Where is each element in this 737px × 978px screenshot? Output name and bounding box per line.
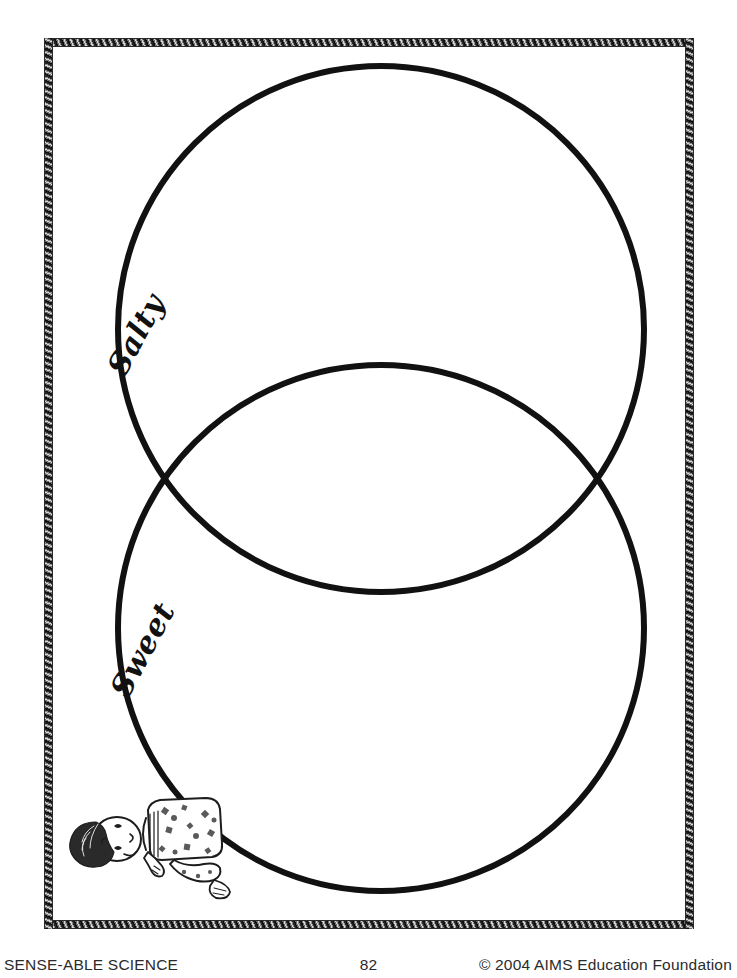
child-lying-down-illustration bbox=[62, 792, 240, 910]
page-footer: SENSE-ABLE SCIENCE 82 © 2004 AIMS Educat… bbox=[0, 952, 737, 978]
venn-label-sweet: Sweet bbox=[103, 596, 182, 703]
venn-label-salty: Salty bbox=[100, 288, 171, 381]
rope-border-left bbox=[44, 38, 53, 929]
rope-border-top bbox=[44, 38, 694, 47]
legs bbox=[170, 860, 220, 882]
venn-circle-salty bbox=[118, 66, 644, 592]
rope-border-right bbox=[685, 38, 694, 929]
worksheet-page: Salty Sweet bbox=[0, 0, 737, 978]
rope-border-bottom bbox=[44, 920, 694, 929]
shirt-neckline bbox=[143, 818, 146, 850]
footer-copyright: © 2004 AIMS Education Foundation bbox=[479, 956, 732, 974]
